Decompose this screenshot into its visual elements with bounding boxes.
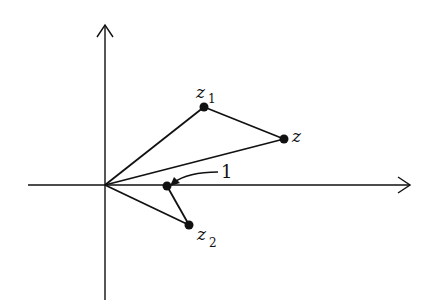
- point-z2: [185, 221, 194, 230]
- point-z: [280, 135, 289, 144]
- label-one: 1: [221, 161, 232, 182]
- annotation-arrow: [170, 172, 218, 186]
- axes: [28, 25, 410, 300]
- complex-plane-diagram: z 1 z 1 z 2: [0, 0, 432, 308]
- label-z2-subscript: 2: [209, 236, 217, 250]
- curved-arrow: [173, 172, 218, 183]
- segment-origin-z1: [105, 107, 204, 185]
- segment-z1-z: [204, 107, 284, 139]
- label-z1: z: [195, 82, 206, 102]
- label-z: z: [291, 126, 302, 146]
- point-one: [163, 182, 172, 191]
- segment-origin-z: [105, 139, 284, 185]
- segments: [105, 107, 284, 225]
- segment-origin-z2: [105, 185, 189, 225]
- label-z2: z: [196, 224, 207, 244]
- label-z1-subscript: 1: [208, 92, 216, 106]
- labels: z 1 z 1 z 2: [195, 82, 302, 250]
